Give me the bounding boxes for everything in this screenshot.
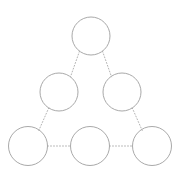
connector-mid-left-to-bottom-left xyxy=(39,108,49,131)
connector-apex-to-mid-right xyxy=(103,51,112,77)
node-mid-right[interactable] xyxy=(103,73,141,111)
diagram-svg xyxy=(0,0,182,190)
nodes-group xyxy=(9,17,172,166)
node-mid-left[interactable] xyxy=(40,73,78,111)
connector-mid-right-to-bottom-right xyxy=(132,108,142,131)
diagram-canvas xyxy=(0,0,182,190)
node-bottom-left[interactable] xyxy=(9,127,48,166)
connectors-group xyxy=(39,51,142,146)
connector-apex-to-mid-left xyxy=(71,51,80,77)
node-apex[interactable] xyxy=(72,17,110,55)
node-bottom-right[interactable] xyxy=(133,127,172,166)
node-bottom-center[interactable] xyxy=(71,127,110,166)
